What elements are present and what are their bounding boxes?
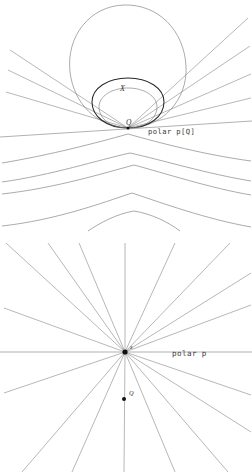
pencil-line — [22, 352, 125, 472]
tangent-ray — [128, 18, 248, 128]
pencil-line — [48, 243, 125, 352]
pencil-line — [72, 352, 125, 472]
upper-panel: X Q polar p[Q] — [0, 5, 252, 231]
pencil-line — [125, 352, 251, 432]
label-polar-p: polar p — [172, 349, 207, 358]
lower-panel: x polar p Q — [0, 243, 252, 472]
conic-branch — [2, 134, 251, 163]
label-x-center: x — [129, 344, 133, 350]
pencil-line — [125, 305, 251, 352]
lower-pencil-of-lines — [4, 243, 251, 472]
pencil-line — [6, 243, 125, 352]
pencil-line — [125, 273, 251, 352]
tangent-ray — [8, 70, 128, 128]
pencil-line — [4, 352, 125, 393]
pencil-line — [79, 243, 125, 352]
conic-branch — [2, 193, 251, 227]
point-center-x — [122, 349, 127, 354]
label-X: X — [119, 84, 126, 93]
label-Q: Q — [126, 118, 132, 127]
conic-branch — [88, 211, 180, 231]
tangent-ray — [128, 74, 251, 128]
pencil-line — [125, 352, 228, 472]
label-Q-lower: Q — [129, 389, 134, 396]
tangent-ray — [128, 46, 250, 128]
upper-tangent-rays — [6, 18, 251, 128]
pencil-line — [125, 243, 175, 352]
upper-hyperbolic-branches — [2, 134, 251, 231]
pencil-line — [125, 352, 251, 395]
tangent-ray — [6, 92, 128, 128]
label-polar-pQ: polar p[Q] — [148, 127, 195, 136]
conic-branch — [2, 165, 251, 195]
pencil-line — [124, 352, 125, 472]
pencil-line — [125, 243, 230, 352]
figure-canvas: X Q polar p[Q] — [0, 0, 252, 473]
conic-large-oval — [70, 5, 187, 128]
tangent-ray — [10, 50, 128, 128]
pencil-line — [125, 352, 175, 472]
pencil-line — [4, 308, 125, 352]
conic-branch — [2, 153, 251, 182]
point-Q-lower — [122, 397, 126, 401]
